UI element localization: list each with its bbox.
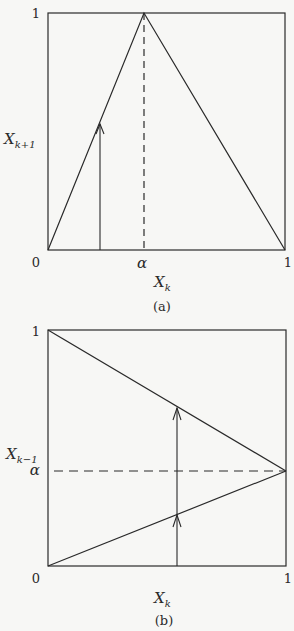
y-axis-label: Xk+1 bbox=[3, 130, 36, 150]
panel-b-frame bbox=[48, 330, 286, 566]
x-axis-label: Xk bbox=[153, 589, 171, 609]
x-tick-0: 0 bbox=[32, 255, 40, 270]
x-tick-alpha: α bbox=[137, 254, 147, 272]
y-tick-1: 1 bbox=[32, 324, 40, 339]
x-axis-label: Xk bbox=[153, 273, 171, 293]
panel-a: 1 0 α 1 Xk+1 Xk (a) bbox=[3, 6, 292, 314]
panel-b: 1 α 0 1 Xk−1 Xk (b) bbox=[5, 324, 292, 628]
y-tick-1: 1 bbox=[32, 6, 40, 21]
caption-b: (b) bbox=[155, 613, 173, 628]
lower-branch-line bbox=[48, 471, 286, 566]
x-tick-1: 1 bbox=[284, 571, 292, 586]
y-axis-label: Xk−1 bbox=[5, 445, 38, 465]
caption-a: (a) bbox=[153, 299, 171, 314]
tent-map-curve bbox=[48, 13, 285, 250]
x-tick-0: 0 bbox=[32, 571, 40, 586]
x-tick-1: 1 bbox=[284, 255, 292, 270]
figure: 1 0 α 1 Xk+1 Xk (a) 1 α 0 1 Xk−1 Xk (b) bbox=[0, 0, 294, 631]
upper-branch-line bbox=[48, 330, 286, 471]
panel-a-frame bbox=[48, 13, 285, 250]
